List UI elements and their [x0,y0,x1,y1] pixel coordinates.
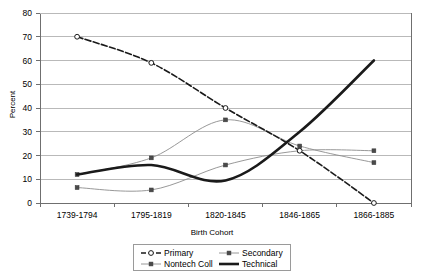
y-tick-label: 0 [10,199,32,207]
y-tick-label: 80 [10,9,32,17]
legend-swatch-filled-square-icon [218,248,240,258]
x-tick-label: 1795-1819 [111,210,191,220]
x-axis-title: Birth Cohort [0,228,424,237]
x-tick-label: 1739-1794 [37,210,117,220]
y-tick-label: 30 [10,128,32,136]
y-tick-label: 60 [10,57,32,65]
y-tick-label: 10 [10,175,32,183]
y-tick-label: 50 [10,80,32,88]
x-tick-label: 1846-1865 [260,210,340,220]
legend-swatch-open-circle-icon [140,248,162,258]
chart-figure: Percent Birth Cohort 01020304050607080 1… [0,0,424,276]
y-tick-label: 20 [10,152,32,160]
y-tick-label: 70 [10,33,32,41]
x-tick-label: 1866-1885 [334,210,414,220]
legend-label: Technical [242,259,277,269]
legend-swatch-none-icon [218,259,240,269]
legend-label: Secondary [242,248,283,258]
legend-label: Primary [164,248,193,258]
chart-legend: PrimarySecondaryNontech CollTechnical [133,244,291,271]
x-tick-label: 1820-1845 [186,210,266,220]
y-tick-label: 40 [10,104,32,112]
legend-label: Nontech Coll [164,259,213,269]
legend-swatch-filled-square-icon [140,259,162,269]
